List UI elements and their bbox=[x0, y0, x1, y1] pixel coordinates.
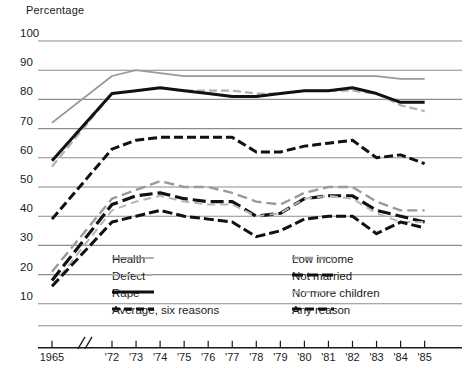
legend-item-average-six-reasons[interactable]: Average, six reasons bbox=[112, 303, 219, 316]
y-tick-label-90: 90 bbox=[20, 56, 33, 68]
legend-swatch-line bbox=[112, 303, 154, 315]
y-tick-label-10: 10 bbox=[20, 290, 33, 302]
legend-swatch-line bbox=[112, 252, 154, 264]
chart-canvas bbox=[0, 0, 473, 368]
y-tick-label-50: 50 bbox=[20, 173, 33, 185]
legend-swatch-line bbox=[292, 303, 334, 315]
series-rape bbox=[52, 88, 425, 161]
axis-break-mark bbox=[78, 337, 85, 349]
legend-item-not-married[interactable]: Not married bbox=[292, 269, 352, 282]
legend-swatch-line bbox=[292, 252, 334, 264]
y-tick-label-70: 70 bbox=[20, 115, 33, 127]
y-tick-label-30: 30 bbox=[20, 231, 33, 243]
x-axis bbox=[38, 337, 462, 349]
series-not-married bbox=[52, 193, 425, 281]
chart-root: Percentage 100908070605040302010 1965'72… bbox=[0, 0, 473, 368]
series-layer bbox=[52, 70, 425, 286]
legend-swatch-line bbox=[112, 269, 154, 281]
legend-item-health[interactable]: Health bbox=[112, 252, 145, 265]
legend-swatch-line bbox=[292, 286, 334, 298]
legend-swatch-line bbox=[292, 269, 334, 281]
legend-swatch-line bbox=[112, 286, 154, 298]
legend-item-any-reason[interactable]: Any reason bbox=[292, 303, 350, 316]
y-tick-label-80: 80 bbox=[20, 85, 33, 97]
x-tick-label-85: '85 bbox=[410, 351, 440, 363]
legend-item-low-income[interactable]: Low income bbox=[292, 252, 353, 265]
y-tick-label-20: 20 bbox=[20, 261, 33, 273]
y-tick-label-100: 100 bbox=[20, 27, 39, 39]
legend-item-defect[interactable]: Defect bbox=[112, 269, 145, 282]
axis-break-mark bbox=[85, 337, 92, 349]
x-tick-label-1965: 1965 bbox=[37, 351, 67, 363]
legend-item-no-more-children[interactable]: No more children bbox=[292, 286, 380, 299]
y-tick-label-60: 60 bbox=[20, 144, 33, 156]
legend-item-rape[interactable]: Rape bbox=[112, 286, 140, 299]
y-tick-label-40: 40 bbox=[20, 202, 33, 214]
